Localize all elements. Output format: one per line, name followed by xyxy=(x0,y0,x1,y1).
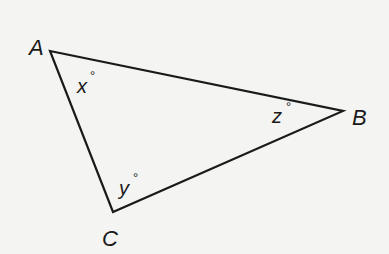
vertex-label-b: B xyxy=(352,105,367,130)
vertex-label-a: A xyxy=(27,35,44,60)
triangle-diagram: A B C x ° z ° y ° xyxy=(0,0,389,254)
angle-label-z: z xyxy=(271,105,282,127)
vertex-label-c: C xyxy=(102,226,118,251)
triangle-svg: A B C x ° z ° y ° xyxy=(0,0,389,254)
degree-symbol-y: ° xyxy=(133,170,138,185)
degree-symbol-x: ° xyxy=(90,68,95,83)
degree-symbol-z: ° xyxy=(286,99,291,114)
angle-label-y: y xyxy=(117,177,130,199)
angle-label-x: x xyxy=(76,75,88,97)
